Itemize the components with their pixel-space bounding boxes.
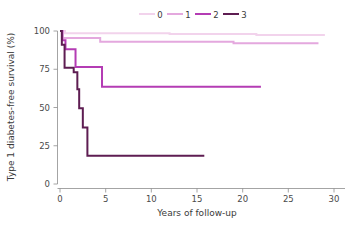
kaplan-meier-figure: 0 1 2 3 0 25 50: [0, 0, 357, 232]
legend-entry-3: 3: [223, 10, 247, 20]
x-axis-ticks: 0 5 10 15 20 25 30: [57, 189, 339, 205]
y-tick-label-75: 75: [39, 64, 50, 74]
legend-entry-2: 2: [195, 10, 219, 20]
survival-curves: [60, 31, 325, 156]
y-axis-title: Type 1 diabetes-free survival (%): [6, 33, 16, 182]
y-tick-label-50: 50: [39, 103, 50, 113]
legend-label-3: 3: [241, 10, 246, 20]
legend-entry-1: 1: [167, 10, 191, 20]
legend-label-0: 0: [157, 10, 162, 20]
y-axis-ticks: 0 25 50 75 100: [34, 26, 58, 189]
x-axis-title: Years of follow-up: [156, 208, 237, 218]
km-curve-series-3: [60, 31, 204, 156]
km-curve-series-2: [60, 31, 261, 87]
x-tick-label-0: 0: [57, 194, 62, 204]
y-tick-label-25: 25: [39, 141, 50, 151]
chart-canvas: 0 1 2 3 0 25 50: [0, 0, 357, 232]
x-tick-label-20: 20: [237, 194, 248, 204]
x-tick-label-10: 10: [146, 194, 157, 204]
x-tick-label-30: 30: [329, 194, 340, 204]
legend-label-2: 2: [213, 10, 218, 20]
x-tick-label-5: 5: [103, 194, 108, 204]
legend-label-1: 1: [185, 10, 190, 20]
x-tick-label-15: 15: [192, 194, 203, 204]
km-curve-series-0: [60, 31, 325, 35]
y-tick-label-0: 0: [45, 179, 50, 189]
y-tick-label-100: 100: [34, 26, 50, 36]
chart-legend: 0 1 2 3: [139, 10, 247, 20]
x-tick-label-25: 25: [283, 194, 294, 204]
legend-entry-0: 0: [139, 10, 163, 20]
